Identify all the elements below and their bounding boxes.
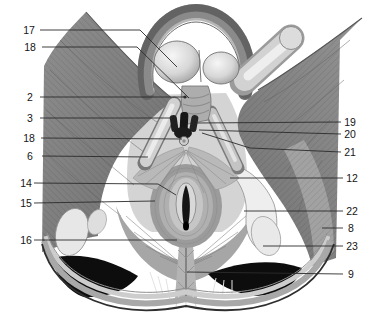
right-bulb [203,52,239,84]
figure-label-18-1: 18 [24,41,36,53]
urethral-opening [180,137,189,146]
figure-container: 17182318614151619202112228239 [0,0,376,328]
figure-label-14-6: 14 [20,177,32,189]
left-bulb [154,41,200,83]
figure-label-2-2: 2 [27,91,33,103]
figure-label-3-3: 3 [27,112,33,124]
leader-dot-2 [183,95,186,98]
figure-label-20-10: 20 [344,128,356,140]
figure-label-18-4: 18 [23,132,35,144]
figure-label-9-16: 9 [348,268,354,280]
figure-label-8-14: 8 [348,222,354,234]
figure-label-22-13: 22 [346,205,358,217]
figure-label-19-9: 19 [344,116,356,128]
figure-label-15-7: 15 [20,197,32,209]
figure-label-6-5: 6 [27,150,33,162]
figure-label-12-12: 12 [346,172,358,184]
cylinder-cut-tip [280,27,303,50]
figure-label-17-0: 17 [23,24,35,36]
figure-label-23-15: 23 [346,240,358,252]
figure-label-21-11: 21 [344,146,356,158]
anatomical-plate: 17182318614151619202112228239 [0,0,376,328]
figure-label-16-8: 16 [20,234,32,246]
